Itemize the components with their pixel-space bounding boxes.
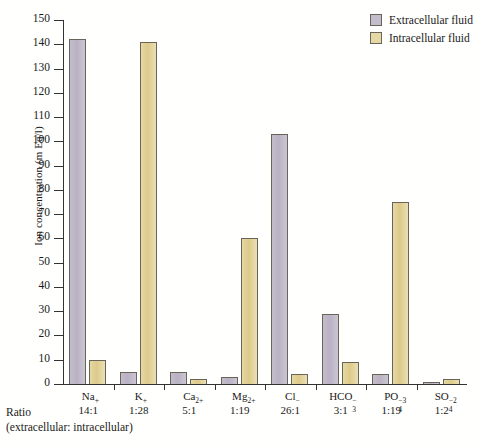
ion-symbol: PO−34 bbox=[362, 389, 420, 403]
y-axis-tick-label: 120 bbox=[33, 85, 50, 97]
y-axis-tick: 80 bbox=[54, 190, 63, 191]
y-axis-tick: 40 bbox=[54, 287, 63, 288]
y-axis-tick: 10 bbox=[54, 360, 63, 361]
bar-extracellular bbox=[372, 374, 389, 384]
bar-extracellular bbox=[221, 377, 238, 384]
legend-item: Intracellular fluid bbox=[370, 32, 473, 44]
x-axis-label: PO−341:19 bbox=[362, 389, 420, 417]
bar-intracellular bbox=[140, 42, 157, 384]
legend-label: Extracellular fluid bbox=[389, 14, 473, 26]
y-axis-tick-label: 90 bbox=[39, 158, 51, 170]
ion-ratio: 1:2 bbox=[413, 403, 471, 417]
y-axis-tick-label: 150 bbox=[33, 12, 50, 24]
y-axis-tick-label: 70 bbox=[39, 206, 51, 218]
ion-symbol: K+ bbox=[110, 389, 168, 403]
ratio-caption-line1: Ratio bbox=[6, 405, 133, 420]
legend-swatch-icon bbox=[370, 14, 382, 26]
y-axis-tick: 90 bbox=[54, 166, 63, 167]
y-axis-tick-label: 0 bbox=[44, 376, 50, 388]
y-axis-tick-label: 100 bbox=[33, 133, 50, 145]
ratio-caption: Ratio (extracellular: intracellular) bbox=[6, 405, 133, 435]
legend: Extracellular fluidIntracellular fluid bbox=[370, 14, 473, 50]
bar-intracellular bbox=[443, 379, 460, 384]
bar-extracellular bbox=[120, 372, 137, 384]
y-axis-tick-label: 140 bbox=[33, 36, 50, 48]
bar-group bbox=[69, 20, 107, 384]
bar-group bbox=[372, 20, 410, 384]
y-axis-tick: 140 bbox=[54, 44, 63, 45]
y-axis-tick-label: 40 bbox=[39, 279, 51, 291]
y-axis-tick-label: 130 bbox=[33, 61, 50, 73]
x-axis-label: HCO−33:1 bbox=[312, 389, 370, 417]
bar-group bbox=[322, 20, 360, 384]
x-axis-label: Mg2+1:19 bbox=[211, 389, 269, 417]
chart-figure: Ion concentration (m Eq/l) 1501401301201… bbox=[0, 0, 483, 446]
bar-extracellular bbox=[170, 372, 187, 384]
y-axis-tick-label: 80 bbox=[39, 182, 51, 194]
y-axis-line bbox=[63, 20, 64, 385]
plot-area: 1501401301201101009080706050403020100 bbox=[63, 20, 467, 385]
x-axis-label: SO−241:2 bbox=[413, 389, 471, 417]
ion-ratio: 1:19 bbox=[211, 403, 269, 417]
bar-intracellular bbox=[291, 374, 308, 384]
x-axis-label: Ca2+5:1 bbox=[160, 389, 218, 417]
ion-ratio: 3:1 bbox=[312, 403, 370, 417]
bar-group bbox=[423, 20, 461, 384]
ion-ratio: 1:19 bbox=[362, 403, 420, 417]
bar-intracellular bbox=[190, 379, 207, 384]
y-axis-tick: 20 bbox=[54, 335, 63, 336]
y-axis-tick-label: 30 bbox=[39, 303, 51, 315]
ion-symbol: Cl− bbox=[261, 389, 319, 403]
bar-extracellular bbox=[423, 382, 440, 384]
y-axis-tick-label: 10 bbox=[39, 352, 51, 364]
y-axis-tick-label: 110 bbox=[33, 109, 50, 121]
bar-group bbox=[221, 20, 259, 384]
bar-intracellular bbox=[241, 238, 258, 384]
bar-extracellular bbox=[69, 39, 86, 384]
y-axis-tick: 150 bbox=[54, 20, 63, 21]
ion-symbol: SO−24 bbox=[413, 389, 471, 403]
ion-ratio: 26:1 bbox=[261, 403, 319, 417]
ion-symbol: Na+ bbox=[59, 389, 117, 403]
bar-extracellular bbox=[322, 314, 339, 384]
legend-swatch-icon bbox=[370, 32, 382, 44]
ion-symbol: Ca2+ bbox=[160, 389, 218, 403]
bar-extracellular bbox=[271, 134, 288, 384]
y-axis-tick: 110 bbox=[54, 117, 63, 118]
ratio-caption-line2: (extracellular: intracellular) bbox=[6, 420, 133, 435]
ion-ratio: 5:1 bbox=[160, 403, 218, 417]
bar-group bbox=[170, 20, 208, 384]
bar-intracellular bbox=[392, 202, 409, 384]
y-axis-tick: 30 bbox=[54, 311, 63, 312]
y-axis-tick: 60 bbox=[54, 238, 63, 239]
y-axis-tick: 0 bbox=[54, 384, 63, 385]
x-axis-label: Cl−26:1 bbox=[261, 389, 319, 417]
y-axis-tick: 50 bbox=[54, 263, 63, 264]
bar-group bbox=[120, 20, 158, 384]
y-axis-tick-label: 50 bbox=[39, 255, 51, 267]
y-axis-tick: 120 bbox=[54, 93, 63, 94]
bar-intracellular bbox=[342, 362, 359, 384]
y-axis-tick-label: 60 bbox=[39, 230, 51, 242]
y-axis-tick: 130 bbox=[54, 69, 63, 70]
ion-symbol: Mg2+ bbox=[211, 389, 269, 403]
legend-item: Extracellular fluid bbox=[370, 14, 473, 26]
bar-intracellular bbox=[89, 360, 106, 384]
legend-label: Intracellular fluid bbox=[389, 32, 470, 44]
bar-group bbox=[271, 20, 309, 384]
ion-symbol: HCO−3 bbox=[312, 389, 370, 403]
y-axis-tick-label: 20 bbox=[39, 327, 51, 339]
y-axis-tick: 100 bbox=[54, 141, 63, 142]
y-axis-tick: 70 bbox=[54, 214, 63, 215]
